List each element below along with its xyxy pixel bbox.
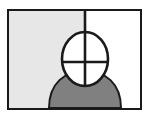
- icon-canvas: [0, 0, 149, 119]
- person-figure-graphic: [9, 11, 140, 108]
- picture-frame-border: [7, 9, 142, 110]
